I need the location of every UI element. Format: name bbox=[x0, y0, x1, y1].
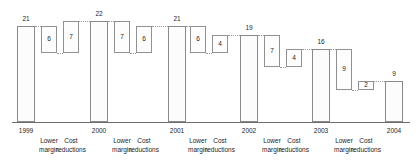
axis-tick-2002: 2002 bbox=[223, 126, 275, 135]
axis-tick-1999: 1999 bbox=[0, 126, 52, 135]
axis-tick-category: Costreductions bbox=[268, 136, 320, 154]
connector-line bbox=[228, 35, 240, 36]
bar-delta-11: 4 bbox=[286, 49, 302, 67]
bar-delta-14: 2 bbox=[358, 81, 374, 90]
connector-line bbox=[206, 53, 212, 54]
connector-line bbox=[374, 81, 385, 82]
connector-line bbox=[152, 26, 168, 27]
waterfall-chart: 216722762164197416929 1999LowermarginCos… bbox=[0, 0, 419, 168]
bar-delta-7: 6 bbox=[190, 26, 206, 54]
connector-line bbox=[35, 26, 41, 27]
axis-tick-line2: reductions bbox=[45, 145, 97, 154]
axis-tick-year-2003: 2003 bbox=[295, 126, 347, 135]
bar-delta-8: 4 bbox=[212, 35, 228, 53]
bar-total-0 bbox=[17, 26, 35, 122]
connector-line bbox=[130, 53, 136, 54]
axis-tick-line2: reductions bbox=[340, 145, 392, 154]
bar-delta-13: 9 bbox=[336, 49, 352, 90]
connector-line bbox=[186, 26, 190, 27]
bar-value-label: 19 bbox=[235, 25, 263, 32]
bar-delta-5: 6 bbox=[136, 26, 152, 54]
axis-tick-2003: 2003 bbox=[295, 126, 347, 135]
axis-tick-cost: Costreductions bbox=[340, 136, 392, 154]
bar-delta-4: 7 bbox=[114, 21, 130, 53]
bar-value-label: 6 bbox=[42, 36, 56, 43]
axis-tick-year-2004: 2004 bbox=[368, 126, 419, 135]
bar-total-15 bbox=[385, 81, 403, 122]
axis-tick-cost: Costreductions bbox=[118, 136, 170, 154]
axis-tick-2004: 2004 bbox=[368, 126, 419, 135]
connector-line bbox=[57, 53, 63, 54]
axis-tick-2001: 2001 bbox=[151, 126, 203, 135]
bar-delta-10: 7 bbox=[264, 35, 280, 67]
bar-value-label: 21 bbox=[12, 16, 40, 23]
bar-value-label: 7 bbox=[115, 34, 129, 41]
bar-value-label: 4 bbox=[287, 54, 301, 61]
axis-tick-line2: reductions bbox=[118, 145, 170, 154]
connector-line bbox=[79, 21, 90, 22]
axis-tick-cost: Costreductions bbox=[45, 136, 97, 154]
connector-line bbox=[302, 49, 312, 50]
bar-value-label: 21 bbox=[163, 16, 191, 23]
axis-tick-category: Costreductions bbox=[118, 136, 170, 154]
bar-value-label: 2 bbox=[359, 82, 373, 89]
bar-value-label: 6 bbox=[137, 36, 151, 43]
bar-value-label: 9 bbox=[380, 71, 408, 78]
bar-total-6 bbox=[168, 26, 186, 122]
bar-value-label: 22 bbox=[85, 11, 113, 18]
bar-total-3 bbox=[90, 21, 108, 122]
x-axis-line bbox=[12, 122, 410, 123]
axis-tick-cost: Costreductions bbox=[268, 136, 320, 154]
axis-tick-category: Costreductions bbox=[194, 136, 246, 154]
axis-tick-line1: Cost bbox=[194, 136, 246, 145]
axis-tick-line1: Cost bbox=[340, 136, 392, 145]
axis-tick-line1: Cost bbox=[268, 136, 320, 145]
bar-value-label: 7 bbox=[64, 34, 78, 41]
connector-line bbox=[258, 35, 264, 36]
connector-line bbox=[108, 21, 114, 22]
bar-total-9 bbox=[240, 35, 258, 122]
bar-value-label: 9 bbox=[337, 66, 351, 73]
axis-tick-2000: 2000 bbox=[73, 126, 125, 135]
connector-line bbox=[280, 67, 286, 68]
bar-value-label: 7 bbox=[265, 48, 279, 55]
axis-tick-line1: Cost bbox=[45, 136, 97, 145]
axis-tick-cost: Costreductions bbox=[194, 136, 246, 154]
bar-value-label: 4 bbox=[213, 41, 227, 48]
axis-tick-year-2001: 2001 bbox=[151, 126, 203, 135]
axis-tick-category: Costreductions bbox=[45, 136, 97, 154]
axis-tick-year-1999: 1999 bbox=[0, 126, 52, 135]
axis-tick-category: Costreductions bbox=[340, 136, 392, 154]
bar-value-label: 6 bbox=[191, 36, 205, 43]
axis-tick-line2: reductions bbox=[194, 145, 246, 154]
connector-line bbox=[352, 90, 358, 91]
bar-value-label: 16 bbox=[307, 39, 335, 46]
axis-tick-year-2000: 2000 bbox=[73, 126, 125, 135]
bar-total-12 bbox=[312, 49, 330, 122]
bar-delta-2: 7 bbox=[63, 21, 79, 53]
axis-tick-line1: Cost bbox=[118, 136, 170, 145]
axis-tick-year-2002: 2002 bbox=[223, 126, 275, 135]
connector-line bbox=[330, 49, 336, 50]
bar-delta-1: 6 bbox=[41, 26, 57, 54]
axis-tick-line2: reductions bbox=[268, 145, 320, 154]
